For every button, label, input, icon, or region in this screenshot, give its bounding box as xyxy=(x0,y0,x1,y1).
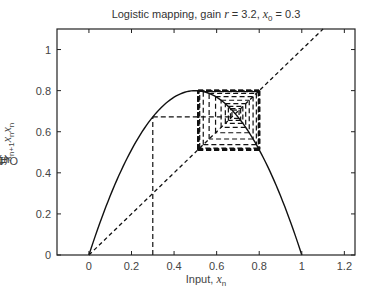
y-tick-label: 0.2 xyxy=(36,208,51,220)
x-tick-label: 0.6 xyxy=(209,260,224,272)
x-tick-label: 1 xyxy=(299,260,305,272)
y-tick-label: 0.6 xyxy=(36,126,51,138)
x-tick-label: 1.2 xyxy=(337,260,352,272)
axis-ticks: 00.20.40.60.811.200.20.40.60.81 xyxy=(36,29,355,272)
x-tick-label: 0.4 xyxy=(166,260,181,272)
y-tick-label: 0.4 xyxy=(36,167,51,179)
x-tick-label: 0 xyxy=(86,260,92,272)
x-tick-label: 0.8 xyxy=(252,260,267,272)
y-tick-label: 1 xyxy=(45,44,51,56)
y-tick-label: 0 xyxy=(45,249,51,261)
identity-line xyxy=(89,29,323,255)
logistic-curve xyxy=(89,91,302,255)
plot-area: 00.20.40.60.811.200.20.40.60.81 xyxy=(0,0,376,298)
cobweb-lines xyxy=(153,91,259,255)
x-axis-label: Input, xn xyxy=(57,272,355,288)
y-tick-label: 0.8 xyxy=(36,85,51,97)
x-tick-label: 0.2 xyxy=(124,260,139,272)
